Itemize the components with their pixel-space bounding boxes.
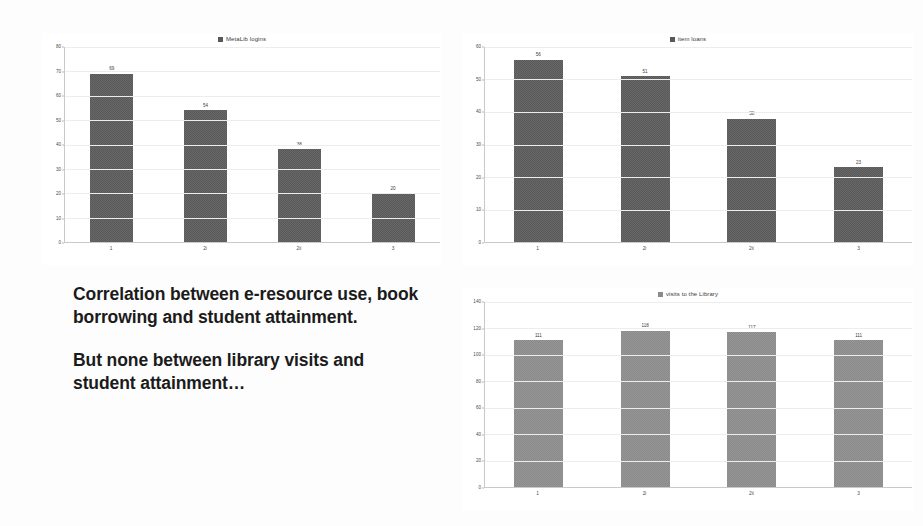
x-axis-tick-label: 2ii <box>698 488 805 500</box>
slide-body-text: Correlation between e-resource use, book… <box>73 283 425 395</box>
body-paragraph-correlation: Correlation between e-resource use, book… <box>73 283 425 329</box>
x-axis-tick-label: 1 <box>64 243 158 255</box>
gridline <box>485 381 912 382</box>
gridline <box>65 96 440 97</box>
y-axis-tick-label: 60 <box>56 94 61 99</box>
gridline <box>485 177 912 178</box>
chart-item-loans: item loans 0102030405060 56513823 12i2ii… <box>462 33 914 265</box>
y-axis-tick-label: 60 <box>476 406 481 411</box>
y-axis-tick-label: 40 <box>476 110 481 115</box>
x-axis-tick-label: 2i <box>591 488 698 500</box>
gridline <box>485 145 912 146</box>
gridline <box>485 302 912 303</box>
x-axis-tick-label: 2i <box>591 243 698 255</box>
gridline <box>65 193 440 194</box>
y-axis-tick-label: 20 <box>476 175 481 180</box>
x-axis: 12i2ii3 <box>64 243 440 255</box>
bar-value-label: 111 <box>855 334 862 339</box>
bar <box>184 110 227 242</box>
y-axis-tick-label: 20 <box>56 192 61 197</box>
y-axis: 0102030405060 <box>462 47 484 243</box>
y-axis-tick-label: 10 <box>56 216 61 221</box>
y-axis-tick-label: 40 <box>56 143 61 148</box>
gridline <box>485 79 912 80</box>
bar-value-label: 20 <box>391 187 396 192</box>
bar <box>514 340 563 487</box>
x-axis-tick-label: 2ii <box>252 243 346 255</box>
gridline <box>65 120 440 121</box>
bar <box>278 149 321 242</box>
gridline <box>65 47 440 48</box>
x-axis-tick-label: 3 <box>805 488 912 500</box>
bar-value-label: 111 <box>535 334 542 339</box>
gridline <box>65 145 440 146</box>
bar-value-label: 51 <box>643 70 648 75</box>
gridline <box>485 47 912 48</box>
chart-visits-to-library: visits to the Library 020406080100120140… <box>462 288 914 510</box>
gridline <box>485 461 912 462</box>
y-axis-tick-label: 100 <box>473 353 481 358</box>
gridline <box>65 71 440 72</box>
gridline <box>485 355 912 356</box>
gridline <box>485 434 912 435</box>
gridline <box>485 328 912 329</box>
y-axis-tick-label: 0 <box>58 241 61 246</box>
y-axis-tick-label: 20 <box>476 459 481 464</box>
x-axis-tick-label: 3 <box>805 243 912 255</box>
plot-wrap: 0102030405060 56513823 <box>462 47 914 243</box>
y-axis-tick-label: 0 <box>478 486 481 491</box>
plot-wrap: 020406080100120140 111118117111 <box>462 302 914 488</box>
y-axis-tick-label: 10 <box>476 208 481 213</box>
x-axis-tick-label: 2i <box>158 243 252 255</box>
y-axis-tick-label: 30 <box>56 167 61 172</box>
legend-swatch-icon <box>670 37 675 42</box>
x-axis-tick-label: 3 <box>346 243 440 255</box>
bar-value-label: 54 <box>203 104 208 109</box>
chart-legend: item loans <box>462 33 914 45</box>
x-axis: 12i2ii3 <box>484 243 912 255</box>
y-axis-tick-label: 40 <box>476 433 481 438</box>
bar-slot: 118 <box>592 302 699 487</box>
plot-area: 111118117111 <box>484 302 912 488</box>
gridline <box>65 218 440 219</box>
chart-legend: MetaLib logins <box>42 33 442 45</box>
bar <box>834 167 883 242</box>
bar-slot: 111 <box>485 302 592 487</box>
y-axis: 01020304050607080 <box>42 47 64 243</box>
gridline <box>485 112 912 113</box>
x-axis-tick-label: 1 <box>484 243 591 255</box>
plot-area: 56513823 <box>484 47 912 243</box>
y-axis-tick-label: 140 <box>473 300 481 305</box>
bar <box>727 119 776 243</box>
plot-area: 69543820 <box>64 47 440 243</box>
legend-label: MetaLib logins <box>226 36 266 42</box>
legend-label: visits to the Library <box>666 291 718 297</box>
gridline <box>65 169 440 170</box>
y-axis-tick-label: 70 <box>56 69 61 74</box>
y-axis-tick-label: 80 <box>476 379 481 384</box>
y-axis-tick-label: 50 <box>56 118 61 123</box>
gridline <box>485 408 912 409</box>
y-axis-tick-label: 50 <box>476 77 481 82</box>
bar-value-label: 23 <box>856 161 861 166</box>
y-axis-tick-label: 120 <box>473 326 481 331</box>
gridline <box>485 210 912 211</box>
y-axis-tick-label: 30 <box>476 143 481 148</box>
y-axis-tick-label: 80 <box>56 45 61 50</box>
y-axis-tick-label: 0 <box>478 241 481 246</box>
bar-group: 111118117111 <box>485 302 912 487</box>
x-axis: 12i2ii3 <box>484 488 912 500</box>
chart-legend: visits to the Library <box>462 288 914 300</box>
legend-swatch-icon <box>218 37 223 42</box>
bar <box>514 60 563 242</box>
chart-metalib-logins: MetaLib logins 01020304050607080 6954382… <box>42 33 442 265</box>
body-paragraph-no-correlation: But none between library visits and stud… <box>73 349 425 395</box>
y-axis: 020406080100120140 <box>462 302 484 488</box>
x-axis-tick-label: 1 <box>484 488 591 500</box>
x-axis-tick-label: 2ii <box>698 243 805 255</box>
slide-canvas: MetaLib logins 01020304050607080 6954382… <box>0 0 923 526</box>
legend-label: item loans <box>678 36 706 42</box>
bar-slot: 111 <box>805 302 912 487</box>
legend-swatch-icon <box>658 292 663 297</box>
plot-wrap: 01020304050607080 69543820 <box>42 47 442 243</box>
